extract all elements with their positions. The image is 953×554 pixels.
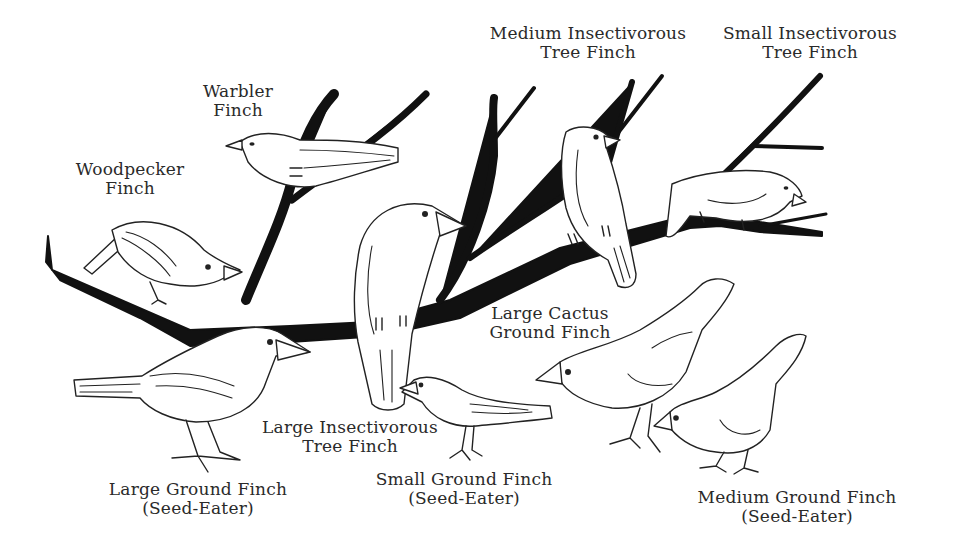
label-large-ground-finch: Large Ground Finch (Seed-Eater) bbox=[96, 480, 300, 518]
label-medium-ground-finch: Medium Ground Finch (Seed-Eater) bbox=[684, 488, 910, 526]
label-woodpecker-finch: Woodpecker Finch bbox=[72, 160, 188, 198]
label-medium-insectivorous-tree-finch: Medium Insectivorous Tree Finch bbox=[478, 24, 698, 62]
label-line: Small Insectivorous bbox=[712, 24, 908, 43]
label-line: Tree Finch bbox=[254, 437, 446, 456]
label-line: (Seed-Eater) bbox=[364, 489, 564, 508]
label-line: Ground Finch bbox=[476, 323, 624, 342]
label-line: Warbler bbox=[198, 82, 278, 101]
label-line: Finch bbox=[72, 179, 188, 198]
label-line: Finch bbox=[198, 101, 278, 120]
finch-diagram: Medium Insectivorous Tree Finch Small In… bbox=[0, 0, 953, 554]
label-large-insectivorous-tree-finch: Large Insectivorous Tree Finch bbox=[254, 418, 446, 456]
label-small-insectivorous-tree-finch: Small Insectivorous Tree Finch bbox=[712, 24, 908, 62]
label-line: Large Cactus bbox=[476, 304, 624, 323]
label-large-cactus-ground-finch: Large Cactus Ground Finch bbox=[476, 304, 624, 342]
label-line: Medium Insectivorous bbox=[478, 24, 698, 43]
label-line: Tree Finch bbox=[478, 43, 698, 62]
woodpecker-finch-drawing bbox=[84, 222, 242, 304]
label-line: (Seed-Eater) bbox=[96, 499, 300, 518]
label-line: (Seed-Eater) bbox=[684, 507, 910, 526]
label-line: Medium Ground Finch bbox=[684, 488, 910, 507]
label-line: Small Ground Finch bbox=[364, 470, 564, 489]
label-warbler-finch: Warbler Finch bbox=[198, 82, 278, 120]
label-line: Large Ground Finch bbox=[96, 480, 300, 499]
label-line: Large Insectivorous bbox=[254, 418, 446, 437]
label-line: Woodpecker bbox=[72, 160, 188, 179]
label-small-ground-finch: Small Ground Finch (Seed-Eater) bbox=[364, 470, 564, 508]
label-line: Tree Finch bbox=[712, 43, 908, 62]
